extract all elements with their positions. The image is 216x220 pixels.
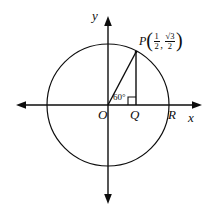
unit-circle-diagram (0, 0, 216, 220)
y-axis-up-arrowhead (104, 16, 112, 26)
point-label-P-with-coordinates: P ( 1 2 , √3 2 ) (139, 32, 183, 51)
coordinate-y-denominator: 2 (167, 42, 173, 51)
coordinate-x-denominator: 2 (154, 42, 160, 51)
open-paren: ( (146, 32, 153, 49)
coordinate-separator-comma: , (160, 39, 164, 51)
unit-circle-figure: y x O Q R 60° P ( 1 2 , √3 2 ) (0, 0, 216, 220)
point-label-P-name: P (139, 35, 146, 47)
point-label-Q: Q (130, 108, 139, 121)
angle-label-60-degrees: 60° (113, 93, 126, 102)
y-axis-label: y (92, 9, 98, 22)
y-axis-down-arrowhead (104, 194, 112, 204)
x-axis-left-arrowhead (16, 101, 26, 109)
x-axis-right-arrowhead (192, 101, 202, 109)
point-label-O: O (98, 108, 107, 121)
coordinate-y-fraction: √3 2 (165, 32, 176, 51)
point-label-R: R (168, 108, 176, 121)
x-axis-label: x (188, 111, 194, 124)
coordinate-x-fraction: 1 2 (154, 32, 160, 51)
point-P-marker (135, 51, 138, 54)
close-paren: ) (176, 32, 183, 49)
right-angle-marker-at-Q (128, 97, 136, 105)
